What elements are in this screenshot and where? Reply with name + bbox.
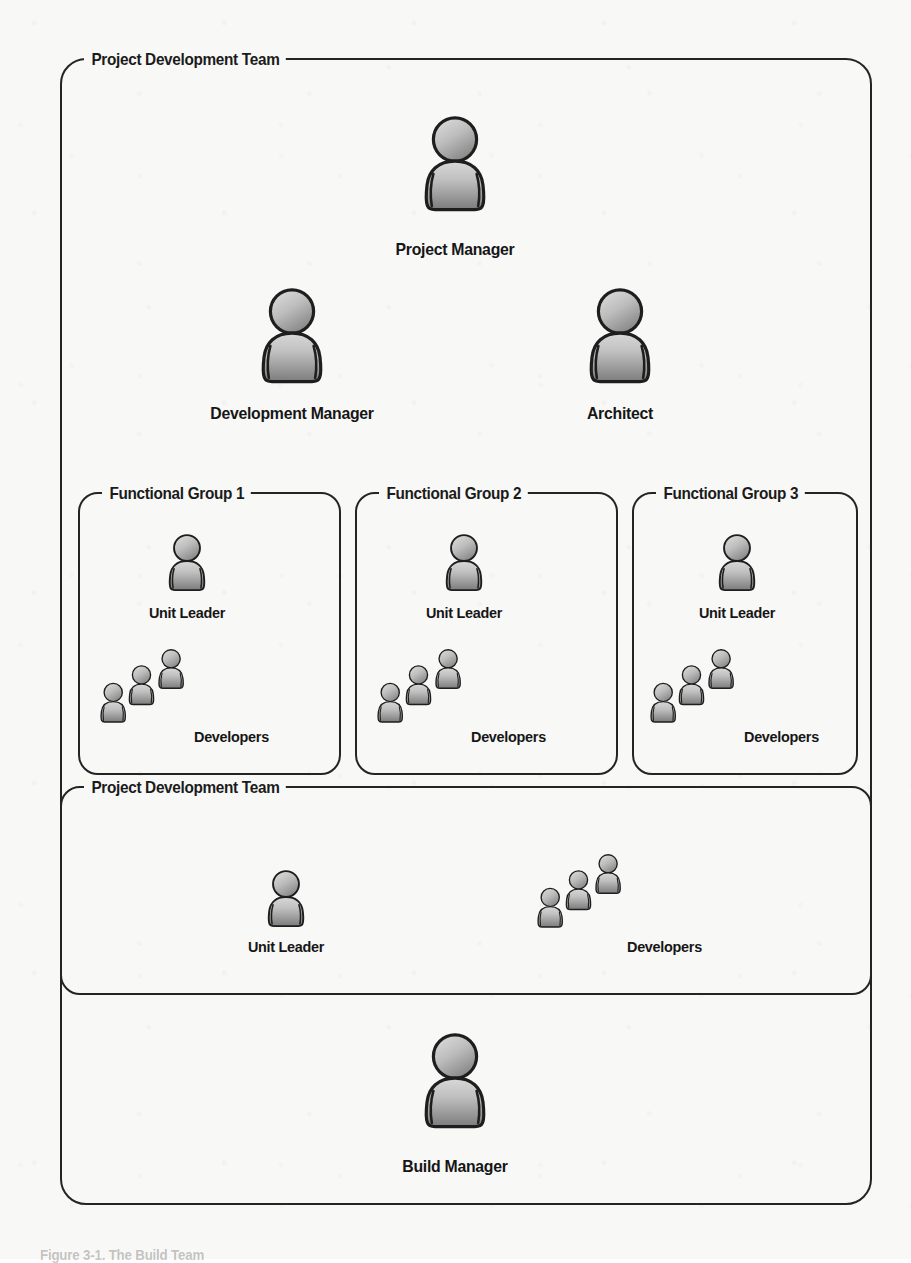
label-build-manager: Build Manager (371, 1157, 538, 1177)
label-unit-leader-group-2: Unit Leader (399, 604, 529, 622)
person-icon-unit-leader-inner-team (262, 870, 310, 927)
inner-group-box-label: Project Development Team (84, 776, 286, 799)
person-icon-unit-leader-group-3 (713, 534, 761, 591)
label-developers-group-2: Developers (471, 728, 546, 746)
label-unit-leader-group-3: Unit Leader (672, 604, 802, 622)
label-architect: Architect (536, 404, 703, 424)
person-icon-development-manager (252, 288, 332, 383)
person-icon-unit-leader-group-2 (440, 534, 488, 591)
label-developers-group-1: Developers (194, 728, 269, 746)
label-unit-leader-group-1: Unit Leader (122, 604, 252, 622)
people-group-icon-developers-inner-team (532, 850, 660, 951)
label-developers-inner-team: Developers (627, 938, 702, 956)
person-icon-project-manager (415, 116, 495, 211)
label-developers-group-3: Developers (744, 728, 819, 746)
figure-caption: Figure 3-1. The Build Team (40, 1247, 204, 1263)
functional-group-2-label: Functional Group 2 (379, 482, 528, 505)
outer-group-box-label: Project Development Team (84, 48, 286, 71)
functional-group-1-label: Functional Group 1 (102, 482, 251, 505)
label-unit-leader-inner-team: Unit Leader (221, 938, 351, 956)
inner-group-box-project-development-team: Project Development Team (60, 786, 872, 995)
functional-group-3-label: Functional Group 3 (656, 482, 805, 505)
person-icon-unit-leader-group-1 (163, 534, 211, 591)
label-development-manager: Development Manager (190, 404, 395, 424)
person-icon-build-manager (415, 1033, 495, 1128)
person-icon-architect (580, 288, 660, 383)
label-project-manager: Project Manager (362, 240, 548, 260)
